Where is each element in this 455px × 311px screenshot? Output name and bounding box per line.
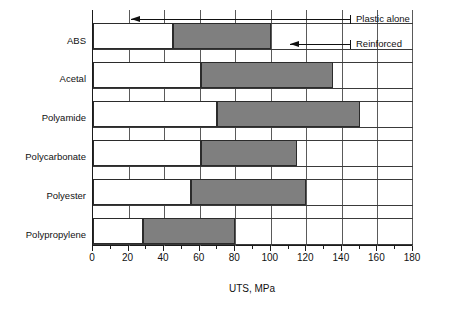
- xtick-minor-90: [252, 246, 253, 249]
- annotation-label-reinforced: Reinforced: [356, 38, 402, 50]
- xtick-label-160: 160: [356, 252, 396, 264]
- annotation-label-plastic-alone: Plastic alone: [356, 13, 410, 25]
- xtick-minor-170: [394, 246, 395, 249]
- xtick-0: [92, 246, 93, 251]
- xtick-140: [341, 246, 342, 251]
- bar-plastic-alone-polyester: [93, 179, 191, 205]
- xtick-20: [128, 246, 129, 251]
- bar-reinforced-polyamide: [217, 101, 359, 127]
- annotation-leader-end-reinforced: [350, 40, 351, 49]
- band-line-6: [93, 127, 413, 128]
- bar-reinforced-polypropylene: [143, 218, 235, 244]
- bar-reinforced-polycarbonate: [201, 140, 297, 166]
- category-label-polyester: Polyester: [6, 190, 92, 202]
- x-axis-title: UTS, MPa: [92, 283, 412, 294]
- xtick-minor-70: [216, 246, 217, 249]
- xtick-180: [412, 246, 413, 251]
- annotation-leader-reinforced: [290, 44, 350, 45]
- bar-plastic-alone-abs: [93, 23, 173, 49]
- xtick-100: [270, 246, 271, 251]
- gridline-140: [342, 10, 343, 246]
- xtick-label-180: 180: [392, 252, 432, 264]
- xtick-label-120: 120: [285, 252, 325, 264]
- category-label-polypropylene: Polypropylene: [6, 229, 92, 241]
- band-line-8: [93, 166, 413, 167]
- gridline-100: [271, 10, 272, 246]
- band-line-10: [93, 205, 413, 206]
- xtick-label-100: 100: [250, 252, 290, 264]
- xtick-label-0: 0: [72, 252, 112, 264]
- gridline-180: [412, 10, 413, 246]
- xtick-minor-130: [323, 246, 324, 249]
- category-label-polycarbonate: Polycarbonate: [6, 151, 92, 163]
- bar-plastic-alone-polycarbonate: [93, 140, 201, 166]
- category-label-abs: ABS: [6, 35, 92, 47]
- band-line-4: [93, 88, 413, 89]
- xtick-label-60: 60: [179, 252, 219, 264]
- xtick-80: [234, 246, 235, 251]
- bar-plastic-alone-polyamide: [93, 101, 217, 127]
- xtick-120: [305, 246, 306, 251]
- bar-plastic-alone-acetal: [93, 62, 201, 88]
- xtick-minor-150: [359, 246, 360, 249]
- xtick-160: [376, 246, 377, 251]
- xtick-minor-10: [110, 246, 111, 249]
- band-line-12: [93, 244, 413, 245]
- bar-reinforced-polyester: [191, 179, 307, 205]
- xtick-minor-110: [288, 246, 289, 249]
- xtick-60: [199, 246, 200, 251]
- xtick-40: [163, 246, 164, 251]
- xtick-label-40: 40: [143, 252, 183, 264]
- bar-chart: ABS Acetal Polyamide Polycarbonate Polye…: [0, 0, 455, 311]
- bar-reinforced-acetal: [201, 62, 333, 88]
- category-label-acetal: Acetal: [6, 73, 92, 85]
- xtick-label-20: 20: [108, 252, 148, 264]
- annotation-leader-plastic-alone: [131, 19, 350, 20]
- xtick-minor-30: [145, 246, 146, 249]
- bar-reinforced-abs: [173, 23, 271, 49]
- xtick-label-80: 80: [214, 252, 254, 264]
- annotation-leader-end-plastic-alone: [350, 15, 351, 24]
- gridline-120: [306, 10, 307, 246]
- xtick-label-140: 140: [321, 252, 361, 264]
- annotation-arrowhead-reinforced: [290, 41, 299, 47]
- bar-plastic-alone-polypropylene: [93, 218, 143, 244]
- category-axis: ABS Acetal Polyamide Polycarbonate Polye…: [0, 0, 92, 311]
- annotation-arrowhead-plastic-alone: [131, 16, 140, 22]
- xtick-minor-50: [181, 246, 182, 249]
- category-label-polyamide: Polyamide: [6, 112, 92, 124]
